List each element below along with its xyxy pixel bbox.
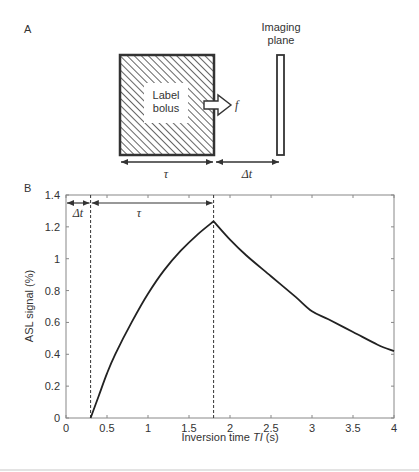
panel-a: A Label bolus f Imaging plane τ Δt — [24, 21, 301, 181]
x-tick-label: 3.5 — [345, 422, 360, 434]
x-tick-label: 1 — [145, 422, 151, 434]
x-axis-label: Inversion time TI (s) — [181, 431, 278, 443]
panel-a-label: A — [24, 23, 32, 35]
flow-symbol: f — [235, 98, 240, 112]
y-tick-label: 0 — [54, 412, 60, 424]
y-tick-label: 0.8 — [45, 285, 60, 297]
x-tick-label: 0.5 — [99, 422, 114, 434]
y-tick-label: 0.6 — [45, 316, 60, 328]
label-bolus-text-line2: bolus — [153, 102, 180, 114]
y-tick-labels: 00.20.40.60.811.21.4 — [45, 189, 60, 424]
panel-b: B 00.511.522.533.54 00.20.40.60.811.21.4… — [23, 182, 397, 443]
imaging-plane-label-line1: Imaging — [261, 21, 300, 33]
x-tick-label: 0 — [63, 422, 69, 434]
plot-delta-t-label: Δt — [72, 206, 84, 220]
panel-b-label: B — [24, 182, 31, 194]
delta-t-label: Δt — [241, 167, 253, 181]
y-tick-label: 1 — [54, 253, 60, 265]
label-bolus-text-line1: Label — [153, 89, 180, 101]
imaging-plane — [277, 55, 284, 155]
figure: A Label bolus f Imaging plane τ Δt B 00.… — [0, 0, 419, 472]
y-axis-label: ASL signal (%) — [23, 270, 35, 342]
tau-label: τ — [164, 167, 169, 181]
plot-frame — [66, 195, 394, 418]
axis-ticks — [66, 195, 394, 418]
y-tick-label: 0.2 — [45, 380, 60, 392]
x-tick-label: 4 — [391, 422, 397, 434]
bottom-divider — [0, 469, 419, 471]
plot-tau-label: τ — [137, 206, 142, 220]
y-tick-label: 1.4 — [45, 189, 60, 201]
asl-signal-curve — [91, 221, 394, 418]
y-tick-label: 1.2 — [45, 221, 60, 233]
x-tick-label: 3 — [309, 422, 315, 434]
y-tick-label: 0.4 — [45, 348, 60, 360]
imaging-plane-label-line2: plane — [268, 34, 295, 46]
